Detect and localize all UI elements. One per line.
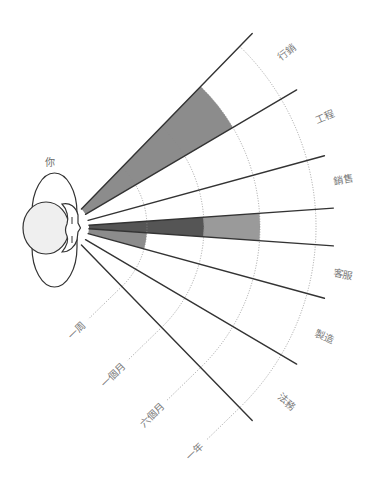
person-top-view-icon: 你 bbox=[23, 156, 81, 288]
time-ring-label: 一周 bbox=[66, 320, 88, 342]
sector-label-sales: 銷售 bbox=[332, 171, 354, 186]
person-label: 你 bbox=[45, 156, 55, 168]
sector-label-legal: 法務 bbox=[275, 391, 298, 413]
communication-fan-diagram: 一周一個月六個月一年行銷工程銷售客服製造法務 你 bbox=[0, 0, 375, 489]
head-shape bbox=[23, 202, 69, 254]
sector-label-manufacturing: 製造 bbox=[313, 327, 336, 346]
time-ring-label: 六個月 bbox=[137, 400, 167, 430]
sector-shading-marketing bbox=[81, 86, 232, 214]
sector-shading-own-team bbox=[204, 213, 260, 240]
sector-divider-line bbox=[86, 240, 297, 364]
time-ring-label: 一年 bbox=[183, 440, 206, 463]
time-ring-label: 一個月 bbox=[98, 360, 128, 390]
sector-label-marketing: 行銷 bbox=[275, 41, 298, 63]
sector-label-engineering: 工程 bbox=[313, 108, 336, 126]
sector-label-customer-service: 客服 bbox=[332, 266, 354, 281]
diagram-canvas: 一周一個月六個月一年行銷工程銷售客服製造法務 你 bbox=[0, 0, 375, 489]
